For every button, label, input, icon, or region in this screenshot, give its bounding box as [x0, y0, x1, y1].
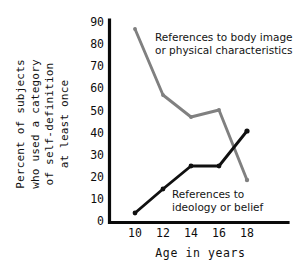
data-point-black-18: [244, 128, 249, 133]
x-axis-title: Age in years: [108, 246, 293, 260]
data-point-black-14: [189, 164, 194, 169]
x-tick-12: 12: [148, 226, 178, 240]
data-point-gray-14: [189, 115, 193, 119]
data-point-black-12: [161, 187, 166, 192]
data-point-black-10: [133, 211, 138, 216]
annotation-gray-line-2: or physical characteristics: [155, 44, 293, 57]
data-point-gray-16: [217, 108, 221, 112]
data-point-gray-18: [245, 178, 249, 182]
data-point-gray-10: [133, 27, 137, 31]
annotation-black-line-2: ideology or belief: [172, 201, 263, 214]
series-annotation-body-image: References to body image or physical cha…: [155, 31, 293, 56]
x-tick-16: 16: [204, 226, 234, 240]
data-point-gray-12: [161, 93, 165, 97]
series-annotation-ideology: References to ideology or belief: [172, 188, 263, 213]
x-tick-10: 10: [120, 226, 150, 240]
annotation-gray-line-1: References to body image: [155, 31, 293, 44]
chart-figure: Percent of subjects who used a category …: [0, 0, 299, 274]
data-point-black-16: [217, 164, 222, 169]
annotation-black-line-1: References to: [172, 188, 263, 201]
x-tick-14: 14: [176, 226, 206, 240]
x-tick-18: 18: [232, 226, 262, 240]
